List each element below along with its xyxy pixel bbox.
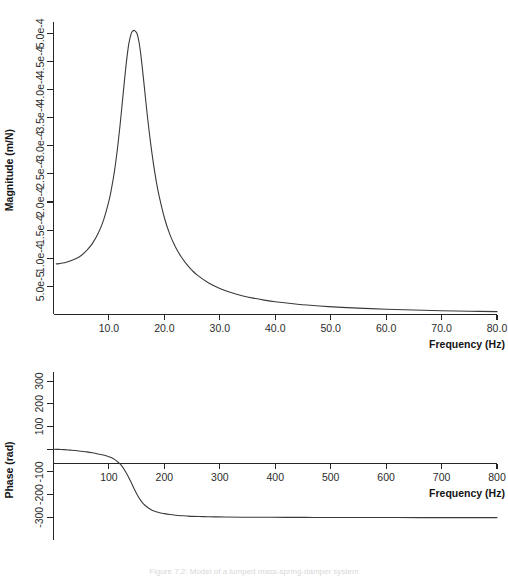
magnitude-y-tick-label: 4.5e-4 (34, 46, 46, 76)
magnitude-x-axis-title: Frequency (Hz) (429, 338, 505, 350)
figure-caption: Figure 7.2: Model of a lumped mass-sprin… (149, 567, 359, 576)
magnitude-x-tick-labels: 10.020.030.040.050.060.070.080.0 (99, 322, 508, 334)
magnitude-y-tick-labels: 5.0e-51.0e-41.5e-42.0e-42.5e-43.0e-43.5e… (34, 18, 46, 301)
magnitude-y-axis: 5.0e-51.0e-41.5e-42.0e-42.5e-43.0e-43.5e… (34, 18, 54, 314)
phase-x-axis-title: Frequency (Hz) (429, 487, 505, 499)
phase-plot: 300200100-100-200-300 100200300400500600… (3, 372, 506, 540)
phase-x-tick-label: 500 (322, 471, 340, 483)
phase-x-tick-label: 400 (266, 471, 284, 483)
magnitude-curve (56, 30, 497, 311)
magnitude-y-tick-label: 5.0e-4 (34, 18, 46, 48)
figure-canvas: 5.0e-51.0e-41.5e-42.0e-42.5e-43.0e-43.5e… (0, 0, 508, 578)
magnitude-x-tick-label: 30.0 (210, 322, 231, 334)
phase-y-axis: 300200100-100-200-300 (33, 372, 54, 540)
phase-y-tick-label: 300 (33, 372, 45, 390)
phase-x-tick-label: 200 (156, 471, 174, 483)
magnitude-y-tick-label: 5.0e-5 (34, 271, 46, 301)
magnitude-y-tick-label: 4.0e-4 (34, 74, 46, 104)
magnitude-x-ticks (109, 315, 497, 321)
phase-y-tick-label: -300 (33, 507, 45, 528)
phase-x-tick-label: 800 (488, 471, 506, 483)
phase-y-tick-label: -200 (33, 484, 45, 505)
phase-x-tick-label: 600 (377, 471, 395, 483)
frequency-response-figure: 5.0e-51.0e-41.5e-42.0e-42.5e-43.0e-43.5e… (0, 0, 508, 578)
phase-x-ticks (109, 464, 497, 470)
magnitude-x-tick-label: 40.0 (265, 322, 286, 334)
magnitude-y-tick-label: 3.0e-4 (34, 131, 46, 161)
phase-x-tick-labels: 100200300400500600700800 (100, 471, 506, 483)
phase-y-axis-title: Phase (rad) (3, 441, 15, 498)
phase-x-tick-label: 300 (211, 471, 229, 483)
magnitude-y-axis-title: Magnitude (m/N) (3, 129, 15, 211)
phase-x-tick-label: 700 (433, 471, 451, 483)
magnitude-y-tick-label: 2.0e-4 (34, 187, 46, 217)
magnitude-y-tick-label: 2.5e-4 (34, 159, 46, 189)
magnitude-y-tick-label: 1.5e-4 (34, 215, 46, 245)
magnitude-y-tick-label: 3.5e-4 (34, 103, 46, 133)
phase-y-tick-label: 200 (33, 395, 45, 413)
phase-curve (54, 449, 498, 517)
magnitude-y-tick-label: 1.0e-4 (34, 243, 46, 273)
magnitude-x-axis: 10.020.030.040.050.060.070.080.0 (54, 315, 508, 335)
magnitude-y-ticks (47, 33, 54, 286)
magnitude-x-tick-label: 80.0 (487, 322, 508, 334)
magnitude-x-tick-label: 50.0 (320, 322, 341, 334)
phase-y-tick-label: 100 (33, 418, 45, 436)
magnitude-plot: 5.0e-51.0e-41.5e-42.0e-42.5e-43.0e-43.5e… (3, 18, 507, 350)
phase-y-tick-label: -100 (33, 461, 45, 482)
phase-y-tick-labels: 300200100-100-200-300 (33, 372, 45, 528)
phase-y-ticks (47, 381, 54, 517)
magnitude-x-tick-label: 20.0 (154, 322, 175, 334)
magnitude-x-tick-label: 60.0 (376, 322, 397, 334)
magnitude-x-tick-label: 10.0 (99, 322, 120, 334)
phase-x-tick-label: 100 (100, 471, 118, 483)
phase-x-axis: 100200300400500600700800 (54, 464, 506, 484)
magnitude-x-tick-label: 70.0 (431, 322, 452, 334)
